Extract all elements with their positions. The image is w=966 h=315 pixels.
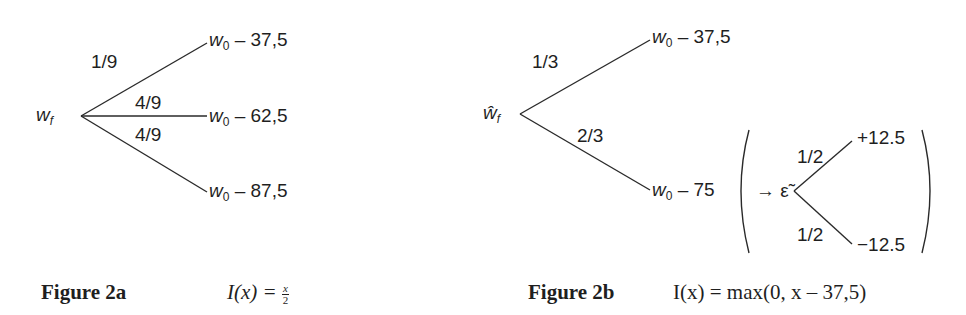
noise-prob-down: 1/2	[797, 225, 823, 244]
prob-label-a-3: 4/9	[135, 125, 161, 144]
caption-formula-b: I(x) = max(0, x – 37,5)	[673, 282, 866, 303]
caption-formula-a: I(x) = x2	[227, 282, 289, 306]
leaf-a-2: w0 – 62,5	[209, 106, 288, 128]
leaf-a-3: w0 – 87,5	[209, 181, 288, 203]
noise-value-up: +12.5	[857, 128, 905, 147]
leaf-b-1: w0 – 37,5	[652, 27, 731, 49]
epsilon-symbol: ε̃	[780, 180, 788, 201]
leaf-a-1: w0 – 37,5	[209, 30, 288, 52]
fraction-x-over-2: x2	[282, 283, 289, 306]
left-paren	[741, 130, 749, 253]
arrow-right-icon: →	[756, 180, 775, 201]
caption-label-a: Figure 2a	[41, 282, 126, 303]
leaf-b-2: w0 – 75	[652, 180, 715, 202]
root-node-b: ŵf	[483, 103, 500, 125]
prob-label-b-2: 2/3	[577, 126, 603, 145]
noise-value-down: −12.5	[857, 235, 905, 254]
noise-node: → ε̃	[756, 181, 789, 200]
prob-label-a-1: 1/9	[91, 52, 117, 71]
root-node-a: wf	[36, 105, 53, 127]
noise-prob-up: 1/2	[797, 147, 823, 166]
caption-label-b: Figure 2b	[528, 282, 615, 303]
prob-label-b-1: 1/3	[532, 52, 558, 71]
prob-label-a-2: 4/9	[135, 93, 161, 112]
right-paren	[922, 130, 930, 253]
